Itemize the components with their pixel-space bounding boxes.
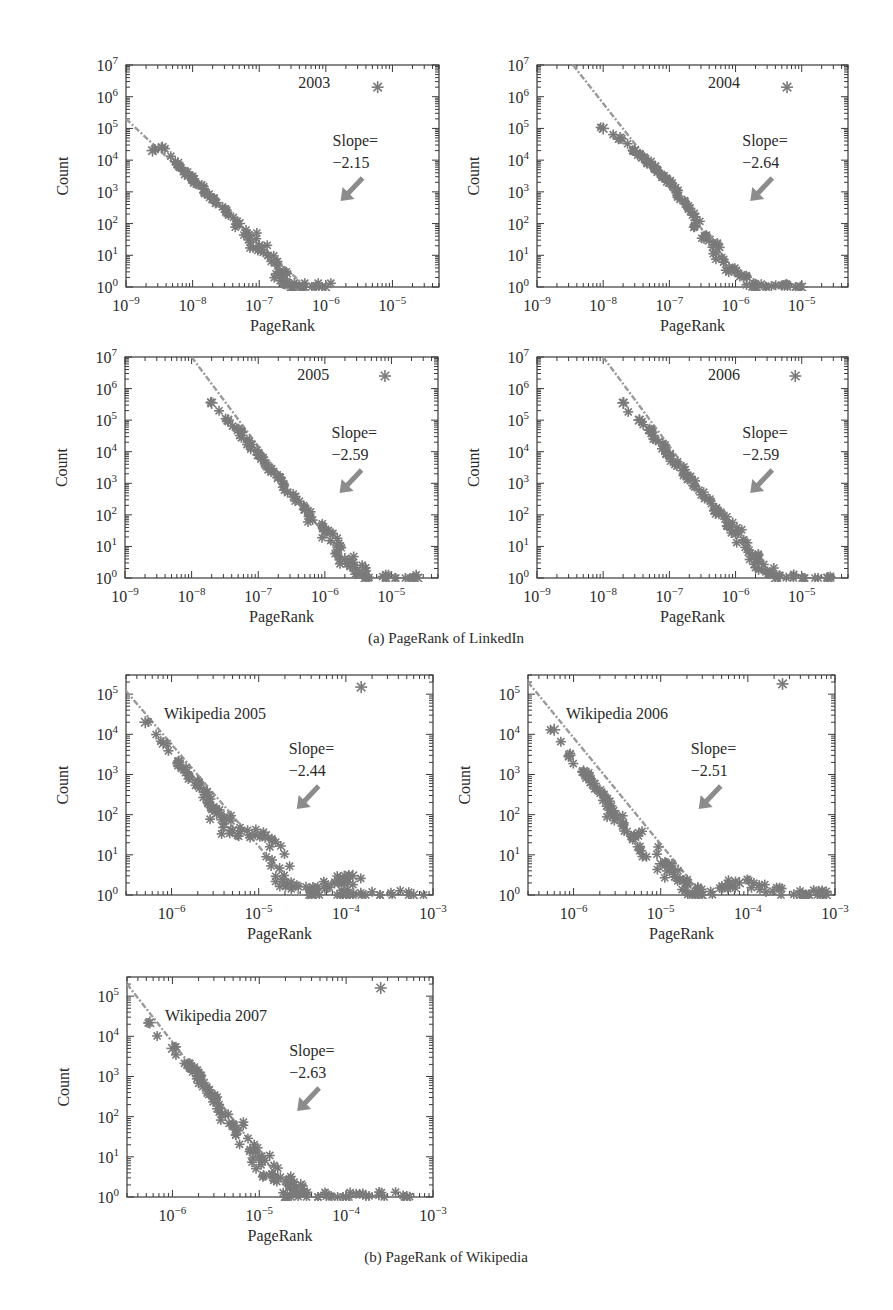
data-point-marker xyxy=(796,281,808,293)
data-point-marker xyxy=(313,1192,323,1202)
data-point-marker xyxy=(355,681,367,693)
data-point-marker xyxy=(769,572,781,584)
x-tick-label: 10−3 xyxy=(419,1204,447,1224)
x-axis-label: PageRank xyxy=(247,925,312,943)
data-point-marker xyxy=(408,889,420,901)
y-axis-label: Count xyxy=(456,765,473,805)
slope-value: −2.51 xyxy=(691,762,728,779)
data-point-marker xyxy=(265,842,275,852)
x-tick-label: 10−9 xyxy=(523,585,551,605)
chart-panel-wikipedia-2005: 10−610−510−410−3100101102103104105PageRa… xyxy=(54,675,447,943)
data-point-marker xyxy=(163,746,173,756)
data-point-marker xyxy=(320,879,330,889)
data-point-marker xyxy=(266,861,276,871)
slope-label: Slope= xyxy=(691,740,736,758)
chart-panel-wikipedia-2006: 10−610−510−410−3100101102103104105PageRa… xyxy=(456,675,849,943)
x-tick-label: 10−3 xyxy=(821,902,849,922)
data-point-marker xyxy=(319,525,331,537)
data-point-marker xyxy=(207,802,219,814)
y-tick-label: 104 xyxy=(97,149,119,169)
slope-value: −2.15 xyxy=(333,154,370,171)
data-point-marker xyxy=(754,565,764,575)
x-tick-label: 10−8 xyxy=(179,294,207,314)
y-axis-label: Count xyxy=(54,156,71,196)
plot-frame xyxy=(125,357,438,578)
data-point-marker xyxy=(794,889,806,901)
data-point-marker xyxy=(760,880,770,890)
chart-panel-wikipedia-2007: 10−610−510−410−3100101102103104105PageRa… xyxy=(55,977,447,1245)
data-point-marker xyxy=(305,889,317,901)
data-point-marker xyxy=(548,724,560,736)
data-point-marker xyxy=(172,756,184,768)
y-tick-label: 104 xyxy=(98,1025,120,1045)
data-point-marker xyxy=(760,282,770,292)
data-point-marker xyxy=(339,553,351,565)
y-tick-label: 107 xyxy=(96,346,118,366)
data-point-marker xyxy=(564,749,576,761)
data-point-marker xyxy=(623,407,633,417)
panel-title: Wikipedia 2007 xyxy=(165,1007,267,1025)
data-point-marker xyxy=(330,549,340,559)
data-point-marker xyxy=(663,176,675,188)
data-point-marker xyxy=(299,503,311,515)
y-tick-label: 105 xyxy=(96,409,118,429)
data-point-marker xyxy=(641,852,651,862)
y-tick-label: 107 xyxy=(508,54,530,74)
data-point-marker xyxy=(326,536,336,546)
data-point-marker xyxy=(655,858,667,870)
data-point-marker xyxy=(233,218,245,230)
panel-title: 2005 xyxy=(297,366,329,383)
y-tick-label: 100 xyxy=(96,567,118,587)
x-tick-label: 10−7 xyxy=(245,294,273,314)
y-tick-label: 106 xyxy=(508,378,530,398)
slope-label: Slope= xyxy=(332,424,377,442)
x-tick-label: 10−9 xyxy=(523,294,551,314)
x-tick-label: 10−5 xyxy=(378,585,406,605)
slope-label: Slope= xyxy=(289,740,334,758)
y-tick-label: 103 xyxy=(508,472,530,492)
data-point-marker xyxy=(311,281,321,291)
arrow-icon xyxy=(297,1088,319,1111)
data-point-marker xyxy=(821,889,833,901)
data-point-marker xyxy=(308,515,318,525)
x-tick-label: 10−5 xyxy=(245,902,273,922)
data-point-marker xyxy=(652,849,662,859)
data-point-marker xyxy=(156,142,168,154)
data-point-marker xyxy=(232,424,244,436)
data-point-marker xyxy=(356,890,366,900)
data-point-marker xyxy=(780,280,790,290)
y-tick-label: 106 xyxy=(508,86,530,106)
y-tick-label: 104 xyxy=(499,723,521,743)
arrow-icon xyxy=(341,178,363,201)
data-point-marker xyxy=(653,842,663,852)
data-point-marker xyxy=(649,161,661,173)
x-axis-label: PageRank xyxy=(649,925,714,943)
data-point-marker xyxy=(788,573,798,583)
y-tick-label: 106 xyxy=(97,86,119,106)
y-tick-label: 102 xyxy=(97,804,119,824)
y-tick-label: 105 xyxy=(499,683,521,703)
data-point-marker xyxy=(295,1179,307,1191)
data-point-marker xyxy=(412,572,424,584)
data-point-marker xyxy=(775,883,785,893)
data-point-marker xyxy=(781,81,793,93)
x-tick-label: 10−5 xyxy=(379,294,407,314)
y-axis-label: Count xyxy=(465,156,482,196)
data-point-marker xyxy=(279,877,291,889)
arrow-icon xyxy=(699,786,721,809)
data-point-marker xyxy=(617,397,629,409)
data-point-marker xyxy=(285,281,297,293)
data-point-marker xyxy=(235,1139,245,1149)
data-point-marker xyxy=(633,414,645,426)
slope-label: Slope= xyxy=(742,424,787,442)
caption-b: (b) PageRank of Wikipedia xyxy=(246,1249,646,1266)
data-point-marker xyxy=(663,449,675,461)
slope-value: −2.59 xyxy=(742,446,779,463)
data-point-marker xyxy=(372,81,384,93)
panel-title: 2004 xyxy=(708,74,740,91)
chart-panel-2003: 10−910−810−710−610−510010110210310410510… xyxy=(54,54,439,335)
data-point-marker xyxy=(707,890,717,900)
data-point-marker xyxy=(157,737,169,749)
data-point-marker xyxy=(252,449,264,461)
y-tick-label: 102 xyxy=(96,504,118,524)
